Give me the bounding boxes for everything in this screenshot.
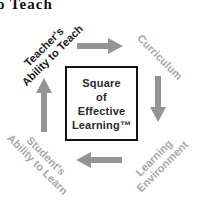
- arrow-left-icon: [76, 152, 122, 168]
- arrow-up-icon: [36, 78, 52, 132]
- square-of-effective-learning-box: Square of Effective Learning™: [65, 66, 138, 141]
- arrow-down-icon: [150, 76, 166, 122]
- cropped-heading-text: o Teach: [0, 0, 53, 13]
- square-of-effective-learning-title: Square of Effective Learning™: [72, 76, 131, 132]
- diagram-canvas: o Teach Teacher's Ability to Teach Curri…: [0, 0, 199, 206]
- arrow-right-icon: [77, 38, 123, 54]
- curriculum-label: Curriculum: [135, 32, 185, 82]
